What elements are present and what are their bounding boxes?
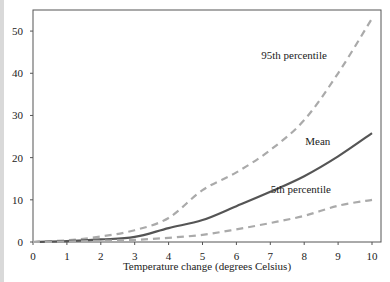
x-axis-title: Temperature change (degrees Celsius) [123,260,291,273]
x-tick-label: 1 [64,250,70,262]
label-mean: Mean [305,135,331,147]
y-tick-label: 20 [12,152,24,164]
series-labels: 95th percentileMean5th percentile [261,49,331,196]
y-tick-label: 50 [12,25,24,37]
x-tick-label: 0 [30,250,36,262]
y-tick-label: 10 [12,194,24,206]
line-chart: 01020304050 012345678910 95th percentile… [0,0,390,282]
y-tick-label: 40 [12,67,24,79]
x-axis: 012345678910 [30,242,378,262]
x-tick-label: 9 [335,250,341,262]
label-95th-percentile: 95th percentile [261,49,327,61]
x-tick-label: 2 [98,250,104,262]
label-5th-percentile: 5th percentile [271,183,331,195]
y-tick-label: 30 [12,109,24,121]
y-axis: 01020304050 [12,25,33,248]
y-tick-label: 0 [18,236,24,248]
plot-frame [33,10,381,242]
x-tick-label: 8 [301,250,307,262]
plot-border [33,10,381,242]
x-tick-label: 10 [367,250,379,262]
